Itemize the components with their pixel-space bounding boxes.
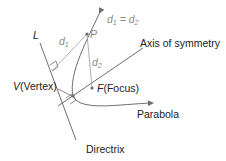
point-vertex [71,94,74,97]
label-d1: d1 [59,36,69,48]
label-parabola: Parabola [137,109,179,120]
label-p: P [90,29,97,40]
vertex-pointer [58,89,72,96]
label-l: L [33,30,39,41]
label-directrix: Directrix [86,144,125,155]
label-axis-of-symmetry: Axis of symmetry [140,38,220,49]
label-d2: d2 [92,57,102,69]
label-equation: d1 = d2 [107,14,138,26]
label-focus: F(Focus) [97,83,139,94]
point-focus [90,86,93,89]
point-p [85,32,88,35]
label-vertex: V(Vertex) [13,81,57,92]
